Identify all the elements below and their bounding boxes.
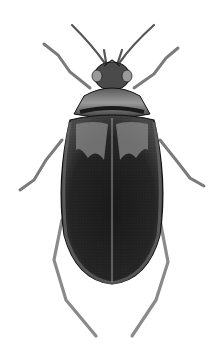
head xyxy=(92,60,132,90)
illustration-canvas xyxy=(0,0,224,362)
antennae xyxy=(72,25,154,62)
elytra xyxy=(61,115,163,284)
pronotum xyxy=(74,88,150,118)
beetle-illustration xyxy=(0,0,224,362)
